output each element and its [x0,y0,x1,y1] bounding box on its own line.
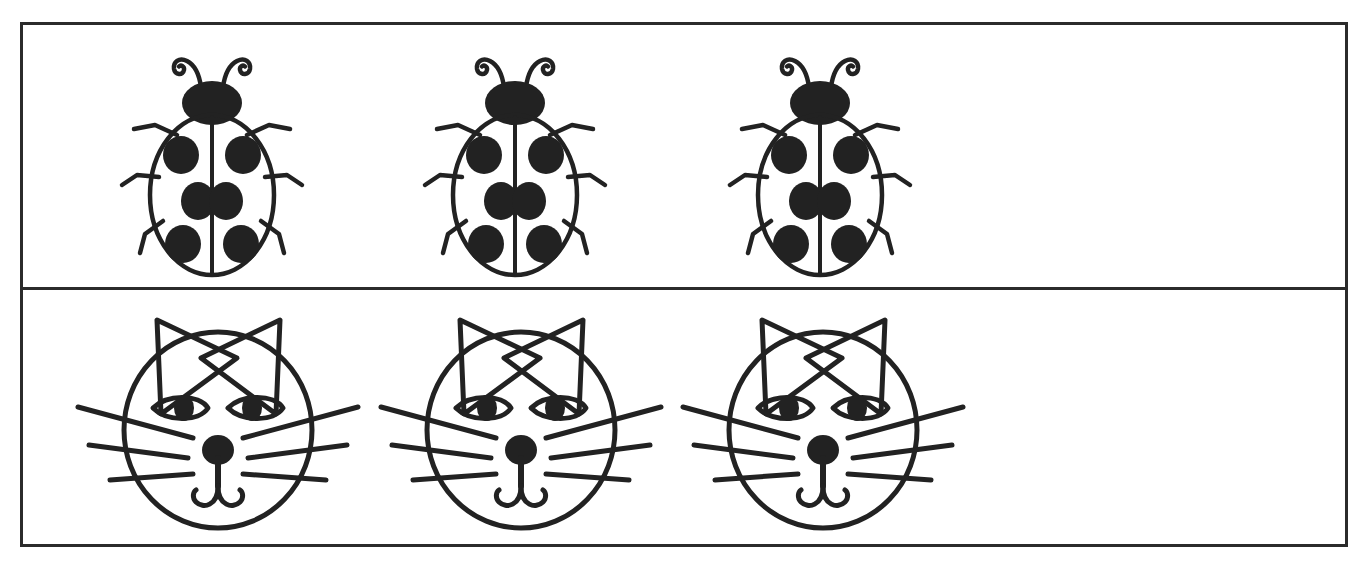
cat-1[interactable] [65,290,365,540]
ladybug-2[interactable] [418,25,618,275]
cat-row-empty-space [980,290,1340,544]
ladybug-1[interactable] [115,25,315,275]
cat-pupil-right [242,395,262,421]
worksheet-canvas [0,0,1363,562]
cat-pupil-right [847,395,867,421]
cat-pupil-right [545,395,565,421]
cat-3[interactable] [670,290,970,540]
row-ladybugs [20,25,1348,287]
cat-pupil-left [174,395,194,421]
ladybug-3[interactable] [723,25,923,275]
cat-mouth [496,486,545,505]
row-cats [20,290,1348,544]
cat-2[interactable] [368,290,668,540]
ladybug-row-empty-space [1030,25,1340,287]
cat-pupil-left [779,395,799,421]
cat-pupil-left [477,395,497,421]
cat-mouth [798,486,847,505]
cat-mouth [193,486,242,505]
